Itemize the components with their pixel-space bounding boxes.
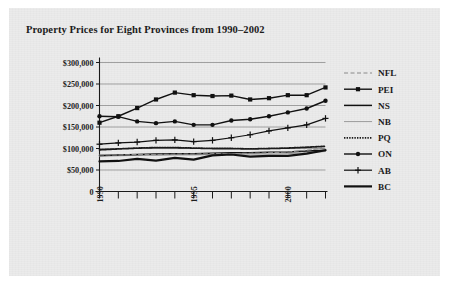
legend-label-ab: AB xyxy=(378,166,391,176)
x-axis-tick-labels: 199019952000 xyxy=(96,186,293,202)
y-tick-label: $100,000 xyxy=(63,145,94,154)
legend-item-nfl[interactable]: NFL xyxy=(344,68,396,78)
series-on xyxy=(97,99,327,127)
y-tick-label: $150,000 xyxy=(63,123,94,132)
legend-item-pei[interactable]: PEI xyxy=(344,85,394,95)
legend-item-pq[interactable]: PQ xyxy=(344,133,391,143)
x-tick-label: 1990 xyxy=(96,186,105,202)
screenshot-page: Property Prices for Eight Provinces from… xyxy=(0,0,449,284)
legend-item-bc[interactable]: BC xyxy=(344,182,391,192)
legend-item-nb[interactable]: NB xyxy=(344,117,391,127)
legend-item-on[interactable]: ON xyxy=(344,149,392,159)
y-tick-label: $50,000 xyxy=(67,166,94,175)
x-tick-label: 2000 xyxy=(284,186,293,202)
legend-label-nb: NB xyxy=(378,117,391,127)
legend-item-ns[interactable]: NS xyxy=(344,101,390,111)
y-axis-tick-labels: 0$50,000$100,000$150,000$200,000$250,000… xyxy=(63,59,94,197)
y-tick-label: 0 xyxy=(89,188,93,197)
chart-figure: 0$50,000$100,000$150,000$200,000$250,000… xyxy=(0,0,449,284)
chart-legend: NFLPEINSNBPQONABBC xyxy=(344,68,396,191)
x-tick-label: 1995 xyxy=(190,186,199,202)
series-pei xyxy=(97,85,327,124)
legend-item-ab[interactable]: AB xyxy=(344,166,391,176)
legend-label-ns: NS xyxy=(378,101,390,111)
legend-label-pq: PQ xyxy=(378,133,391,143)
y-tick-label: $200,000 xyxy=(63,102,94,111)
legend-label-bc: BC xyxy=(378,182,391,192)
legend-label-on: ON xyxy=(378,149,392,159)
data-series-layer xyxy=(97,85,329,161)
line-chart-svg: 0$50,000$100,000$150,000$200,000$250,000… xyxy=(0,0,449,284)
y-tick-label: $300,000 xyxy=(63,59,94,68)
y-tick-label: $250,000 xyxy=(63,80,94,89)
legend-label-nfl: NFL xyxy=(378,68,396,78)
legend-label-pei: PEI xyxy=(378,85,394,95)
series-pq xyxy=(100,146,326,149)
